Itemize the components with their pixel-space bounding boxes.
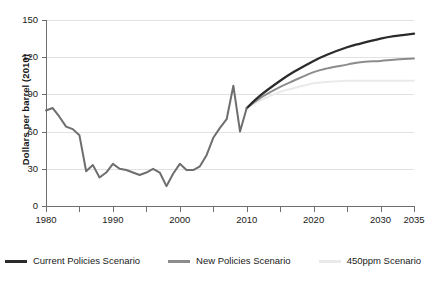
x-tick-mark bbox=[180, 207, 181, 212]
y-tick-label: 60 bbox=[4, 127, 38, 137]
x-tick-label: 1980 bbox=[26, 215, 66, 225]
y-tick-mark bbox=[42, 94, 47, 95]
y-tick-label: 0 bbox=[4, 201, 38, 211]
x-tick-mark bbox=[314, 207, 315, 212]
y-tick-label: 30 bbox=[4, 164, 38, 174]
x-tick-label: 2010 bbox=[227, 215, 267, 225]
x-tick-mark bbox=[280, 207, 281, 212]
legend-item[interactable]: 450ppm Scenario bbox=[319, 256, 421, 266]
x-axis-line bbox=[46, 206, 415, 207]
legend-label: 450ppm Scenario bbox=[347, 256, 421, 266]
y-tick-label: 120 bbox=[4, 52, 38, 62]
legend-swatch-icon bbox=[5, 260, 27, 263]
y-tick-mark bbox=[42, 169, 47, 170]
plot-area bbox=[46, 20, 414, 206]
gridline bbox=[46, 132, 414, 133]
y-axis-line bbox=[46, 20, 47, 207]
legend-label: Current Policies Scenario bbox=[33, 256, 140, 266]
x-tick-label: 2000 bbox=[160, 215, 200, 225]
gridline bbox=[46, 169, 414, 170]
legend-swatch-icon bbox=[319, 260, 341, 263]
x-tick-label: 2035 bbox=[394, 215, 426, 225]
y-tick-mark bbox=[42, 20, 47, 21]
legend-item[interactable]: New Policies Scenario bbox=[168, 256, 291, 266]
legend-label: New Policies Scenario bbox=[196, 256, 291, 266]
y-tick-label: 90 bbox=[4, 89, 38, 99]
x-tick-mark bbox=[381, 207, 382, 212]
chart-legend: Current Policies ScenarioNew Policies Sc… bbox=[0, 248, 426, 274]
x-tick-label: 2020 bbox=[294, 215, 334, 225]
x-tick-mark bbox=[247, 207, 248, 212]
y-tick-mark bbox=[42, 57, 47, 58]
x-tick-mark bbox=[46, 207, 47, 212]
x-tick-mark bbox=[146, 207, 147, 212]
x-tick-mark bbox=[347, 207, 348, 212]
x-tick-label: 1990 bbox=[93, 215, 133, 225]
y-tick-label: 150 bbox=[4, 15, 38, 25]
legend-swatch-icon bbox=[168, 260, 190, 263]
x-tick-mark bbox=[213, 207, 214, 212]
x-tick-mark bbox=[414, 207, 415, 212]
gridline bbox=[46, 20, 414, 21]
gridline bbox=[46, 94, 414, 95]
x-tick-mark bbox=[113, 207, 114, 212]
x-tick-mark bbox=[79, 207, 80, 212]
gridline bbox=[46, 57, 414, 58]
legend-item[interactable]: Current Policies Scenario bbox=[5, 256, 140, 266]
oil-price-chart: Dollars per barrel (2010) 0306090120150 … bbox=[0, 0, 426, 282]
y-tick-mark bbox=[42, 132, 47, 133]
